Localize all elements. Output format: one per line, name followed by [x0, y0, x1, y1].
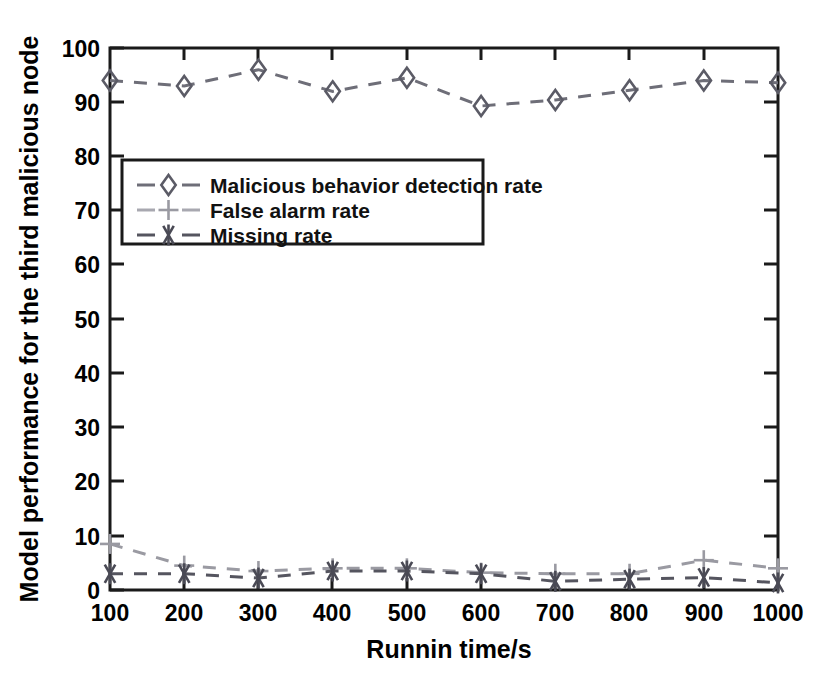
x-tick-labels: 100 200 300 400 500 600 700 800 900 1000 — [91, 600, 804, 626]
plot-frame — [110, 48, 778, 590]
y-tick-labels: 100 90 80 70 60 50 40 30 20 10 0 — [62, 36, 100, 604]
figure-container: 100 90 80 70 60 50 40 30 20 10 0 100 200… — [0, 0, 824, 681]
asterisk-marker — [699, 567, 710, 588]
x-tick-label: 300 — [239, 600, 277, 626]
chart-canvas: 100 90 80 70 60 50 40 30 20 10 0 100 200… — [0, 0, 824, 681]
y-axis-ticks — [110, 48, 778, 590]
x-axis-title: Runnin time/s — [366, 635, 531, 663]
y-tick-label: 10 — [74, 524, 100, 550]
y-tick-label: 30 — [74, 415, 100, 441]
series-plus — [100, 534, 788, 584]
y-tick-label: 80 — [74, 144, 100, 170]
legend-label: Missing rate — [210, 224, 333, 247]
x-tick-label: 400 — [313, 600, 351, 626]
x-tick-label: 700 — [536, 600, 574, 626]
x-tick-label: 500 — [388, 600, 426, 626]
y-tick-label: 40 — [74, 361, 100, 387]
legend-label: False alarm rate — [210, 199, 370, 222]
y-tick-label: 100 — [62, 36, 100, 62]
x-tick-label: 900 — [685, 600, 723, 626]
x-tick-label: 600 — [462, 600, 500, 626]
x-tick-label: 200 — [165, 600, 203, 626]
y-tick-label: 90 — [74, 90, 100, 116]
asterisk-marker — [773, 572, 784, 593]
y-tick-label: 50 — [74, 307, 100, 333]
x-tick-label: 1000 — [752, 600, 803, 626]
y-axis-title: Model performance for the third maliciou… — [15, 36, 43, 603]
x-axis-ticks — [184, 48, 704, 590]
y-tick-label: 60 — [74, 252, 100, 278]
y-tick-label: 70 — [74, 198, 100, 224]
x-tick-label: 800 — [610, 600, 648, 626]
series-diamond — [103, 60, 785, 116]
y-tick-label: 20 — [74, 469, 100, 495]
x-tick-label: 100 — [91, 600, 129, 626]
series-layer — [100, 60, 788, 594]
legend-label: Malicious behavior detection rate — [210, 174, 543, 197]
